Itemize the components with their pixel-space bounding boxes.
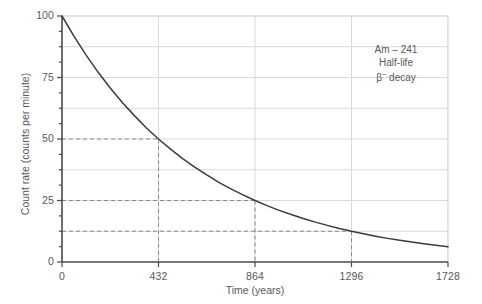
y-tick-label: 100 xyxy=(16,9,54,21)
x-tick-label: 1296 xyxy=(327,270,377,282)
y-tick-label: 0 xyxy=(16,255,54,267)
x-tick-label: 864 xyxy=(230,270,280,282)
isotope-annotation: Am – 241 Half-life β− decay xyxy=(348,44,444,85)
x-axis-title: Time (years) xyxy=(62,284,448,296)
y-axis-title: Count rate (counts per minute) xyxy=(19,44,31,244)
x-tick-label: 0 xyxy=(37,270,87,282)
annotation-line-halflife: Half-life xyxy=(348,57,444,70)
annotation-line-isotope: Am – 241 xyxy=(348,44,444,57)
decay-word: decay xyxy=(386,72,415,83)
decay-chart: 0255075100 043286412961728 Count rate (c… xyxy=(0,0,482,304)
annotation-line-decay: β− decay xyxy=(348,69,444,85)
x-tick-label: 1728 xyxy=(423,270,473,282)
x-tick-label: 432 xyxy=(134,270,184,282)
